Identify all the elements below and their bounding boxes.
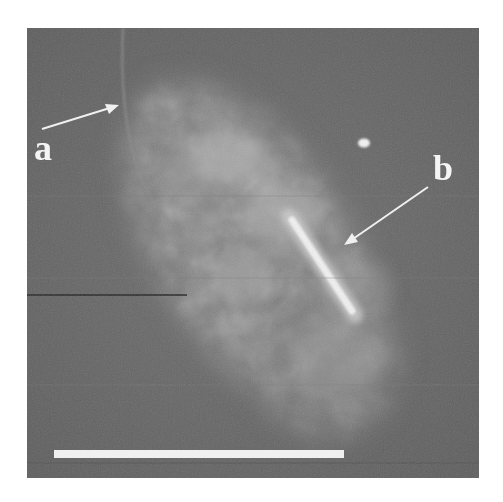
label-a: a: [34, 130, 52, 166]
label-b: b: [433, 150, 453, 186]
grain: [27, 28, 479, 478]
scale-bar: [54, 450, 344, 458]
micrograph-content: [27, 28, 479, 478]
micrograph-image: a b: [27, 28, 479, 478]
